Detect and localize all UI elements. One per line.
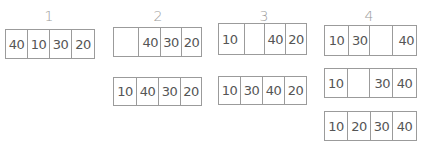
array-cell: 40 [393, 69, 416, 97]
step-1-label: 1 [39, 9, 59, 23]
array-cell: 30 [371, 112, 393, 140]
array-cell: 30 [370, 69, 393, 97]
array-cell: 30 [161, 28, 182, 56]
array-cell: 30 [50, 30, 72, 58]
step-3-label: 3 [254, 9, 274, 23]
array-cell: 20 [348, 112, 371, 140]
array-cell: 10 [325, 69, 348, 97]
array-cell: 20 [182, 28, 201, 56]
step-3-array-row-2: 10 30 40 20 [218, 76, 307, 105]
array-cell: 30 [159, 78, 181, 105]
step-2-label: 2 [148, 9, 168, 23]
array-cell: 30 [349, 26, 370, 55]
array-cell: 10 [28, 30, 50, 58]
array-cell: 40 [265, 24, 286, 54]
array-cell: 30 [241, 77, 263, 104]
step-1-array-row-1: 40 10 30 20 [5, 29, 95, 59]
array-cell [348, 69, 370, 97]
array-cell: 40 [139, 28, 161, 56]
step-4-label: 4 [359, 9, 379, 23]
array-cell: 20 [181, 78, 201, 105]
array-cell: 40 [137, 78, 159, 105]
step-2-array-row-1: 40 30 20 [113, 27, 202, 57]
array-cell: 40 [263, 77, 285, 104]
step-3-array-row-1: 10 40 20 [218, 23, 307, 55]
step-2-array-row-2: 10 40 30 20 [113, 77, 202, 106]
array-cell [370, 26, 393, 55]
array-cell: 40 [393, 26, 416, 55]
array-cell: 10 [114, 78, 137, 105]
step-4-array-row-3: 10 20 30 40 [324, 111, 417, 141]
array-cell: 10 [325, 112, 348, 140]
array-cell: 20 [72, 30, 94, 58]
array-cell: 10 [219, 24, 245, 54]
array-cell: 20 [286, 24, 306, 54]
step-4-array-row-2: 10 30 40 [324, 68, 417, 98]
array-cell: 10 [325, 26, 349, 55]
array-cell: 40 [6, 30, 28, 58]
array-cell: 10 [219, 77, 241, 104]
array-cell: 40 [393, 112, 416, 140]
step-4-array-row-1: 10 30 40 [324, 25, 417, 56]
array-cell: 20 [285, 77, 306, 104]
array-cell [114, 28, 139, 56]
array-cell [245, 24, 265, 54]
